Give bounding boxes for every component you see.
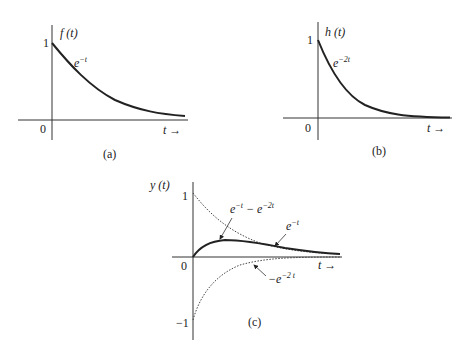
c-pointer-neg-exp-neg-2t bbox=[254, 265, 266, 276]
panel-a: 1 f (t) e−t 0 t → (a) bbox=[18, 25, 188, 161]
a-y-tick-1: 1 bbox=[43, 36, 49, 50]
b-curve-exp-neg-2t bbox=[318, 40, 450, 118]
c-y-tick-neg-1: −1 bbox=[176, 316, 189, 330]
c-y-tick-1: 1 bbox=[182, 189, 188, 203]
figure: 1 f (t) e−t 0 t → (a) 1 h (t) e−2t 0 t →… bbox=[0, 0, 473, 347]
c-caption: (c) bbox=[248, 315, 261, 329]
panel-b: 1 h (t) e−2t 0 t → (b) bbox=[283, 22, 452, 158]
b-curve-label: e−2t bbox=[333, 55, 351, 70]
c-label-difference: e−t − e−2t bbox=[230, 201, 275, 216]
b-ylabel: h (t) bbox=[325, 25, 345, 39]
c-ylabel: y (t) bbox=[149, 178, 170, 192]
a-curve-exp-neg-t bbox=[52, 43, 185, 116]
b-xlabel: t → bbox=[427, 121, 445, 135]
c-pointer-exp-neg-t bbox=[275, 234, 286, 246]
c-curve-difference bbox=[193, 240, 340, 257]
b-y-tick-1: 1 bbox=[307, 33, 313, 47]
b-caption: (b) bbox=[372, 144, 386, 158]
c-label-neg-exp-neg-2t: −e−2 t bbox=[268, 271, 296, 286]
c-origin: 0 bbox=[181, 259, 187, 273]
a-xlabel: t → bbox=[163, 123, 181, 137]
c-xlabel: t → bbox=[318, 258, 336, 272]
a-origin: 0 bbox=[40, 122, 46, 136]
b-origin: 0 bbox=[305, 121, 311, 135]
a-caption: (a) bbox=[103, 147, 116, 161]
panel-c: y (t) 1 −1 0 t → (c) e−t − e−2t e−t −e−2… bbox=[149, 178, 342, 340]
a-curve-label: e−t bbox=[74, 55, 88, 70]
a-ylabel: f (t) bbox=[60, 26, 78, 40]
c-label-exp-neg-t: e−t bbox=[286, 218, 300, 233]
